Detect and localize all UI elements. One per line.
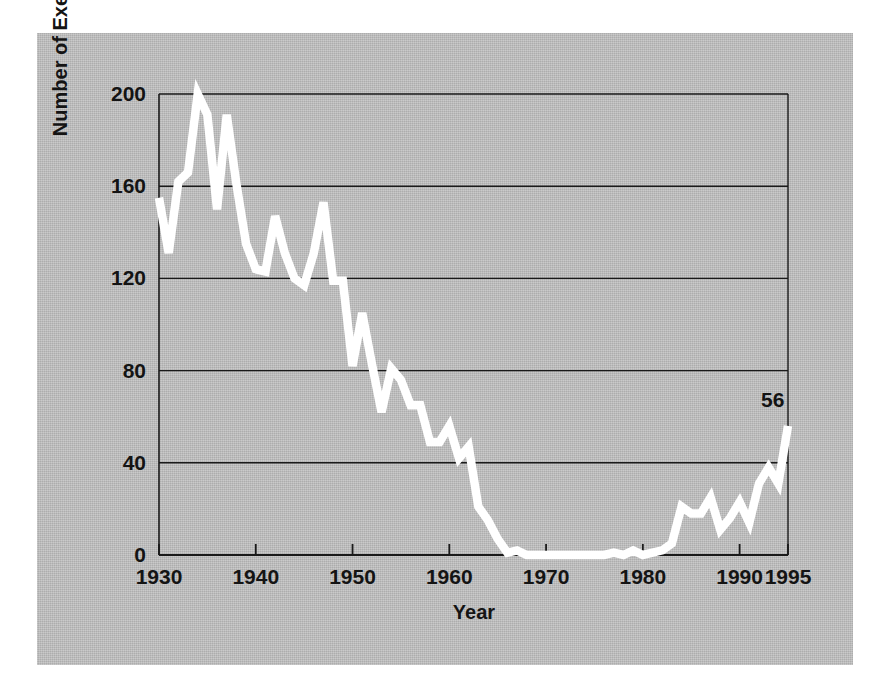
- x-tick-label: 1950: [318, 566, 388, 587]
- x-tick-label: 1980: [608, 566, 678, 587]
- endpoint-value-annotation: 56: [761, 388, 784, 412]
- y-tick-label: 40: [80, 452, 146, 473]
- data-series-line: [159, 94, 788, 555]
- y-tick-label: 160: [80, 175, 146, 196]
- x-axis-title: Year: [159, 601, 789, 624]
- y-tick-label: 200: [80, 83, 146, 104]
- y-tick-label: 0: [80, 544, 146, 565]
- chart-figure: 20016012080400 1930194019501960197019801…: [0, 0, 890, 699]
- x-tick-label: 1970: [511, 566, 581, 587]
- x-tick-label: 1995: [753, 566, 823, 587]
- y-axis-title: Number of Executions: [49, 0, 72, 180]
- executions-line: [159, 94, 788, 555]
- x-tick-label: 1960: [414, 566, 484, 587]
- x-tick-label: 1930: [124, 566, 194, 587]
- x-tick-label: 1940: [221, 566, 291, 587]
- y-tick-label: 80: [80, 360, 146, 381]
- y-tick-label: 120: [80, 267, 146, 288]
- x-axis-ticks-group: [159, 544, 788, 555]
